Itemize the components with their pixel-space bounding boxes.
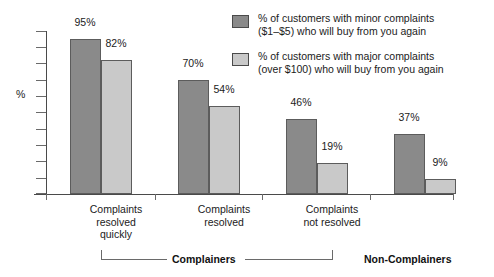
bar-major-complaints-resolved — [209, 106, 240, 194]
bracket-tick-left — [101, 250, 102, 259]
bar-value-label: 9% — [418, 156, 462, 168]
x-axis-tick — [370, 194, 371, 200]
category-line: not resolved — [272, 216, 392, 229]
bar-value-label: 54% — [202, 83, 246, 95]
y-axis-title: % — [16, 88, 25, 100]
x-axis-tick — [155, 194, 156, 200]
category-line: quickly — [56, 228, 176, 241]
bar-value-label: 95% — [63, 16, 107, 28]
y-axis-tick — [36, 63, 46, 64]
y-axis-tick — [36, 178, 46, 179]
bar-value-label: 46% — [279, 96, 323, 108]
bar-major-complaints-resolved-quickly — [101, 60, 132, 194]
legend-swatch-minor-icon — [232, 15, 249, 28]
bracket-line-left — [101, 259, 167, 260]
bracket-line-right — [245, 259, 333, 260]
group-label-complainers: Complainers — [172, 253, 236, 265]
bar-value-label: 19% — [310, 140, 354, 152]
x-axis-tick — [262, 194, 263, 200]
category-line: Complaints — [56, 203, 176, 216]
bar-value-label: 70% — [171, 57, 215, 69]
bar-value-label: 37% — [387, 111, 431, 123]
x-axis-category-label-complaints-not-resolved: Complaints not resolved — [272, 203, 392, 228]
chart-figure: % of customers with minor complaints ($1… — [0, 0, 494, 277]
bracket-tick-right — [332, 250, 333, 259]
category-line: resolved — [56, 216, 176, 229]
bar-value-label: 82% — [94, 37, 138, 49]
x-axis-category-label-complaints-resolved: Complaints resolved — [164, 203, 284, 228]
x-axis-line — [34, 194, 454, 195]
category-line: Complaints — [164, 203, 284, 216]
x-axis-tick — [46, 194, 47, 200]
y-axis-tick — [36, 31, 46, 32]
bar-minor-complaints-resolved — [178, 80, 209, 194]
category-line: Complaints — [272, 203, 392, 216]
y-axis-tick — [36, 96, 46, 97]
y-axis-tick — [36, 145, 46, 146]
bar-major-complaints-not-resolved — [317, 163, 348, 194]
y-axis-tick — [36, 129, 46, 130]
category-line: resolved — [164, 216, 284, 229]
group-label-non-complainers: Non-Complainers — [364, 253, 452, 265]
bar-minor-complaints-not-resolved — [286, 119, 317, 194]
plot-area: 95% 82% 70% 54% 46% 19% 37% 9% — [46, 31, 454, 194]
legend-label-minor-line1: % of customers with minor complaints — [258, 12, 434, 25]
y-axis-tick — [36, 47, 46, 48]
bar-major-non-complainers — [425, 179, 456, 194]
y-axis-tick — [36, 161, 46, 162]
y-axis-tick — [36, 112, 46, 113]
x-axis-tick — [453, 194, 454, 200]
bar-minor-complaints-resolved-quickly — [70, 39, 101, 194]
y-axis-tick — [36, 80, 46, 81]
x-axis-category-label-complaints-resolved-quickly: Complaints resolved quickly — [56, 203, 176, 241]
